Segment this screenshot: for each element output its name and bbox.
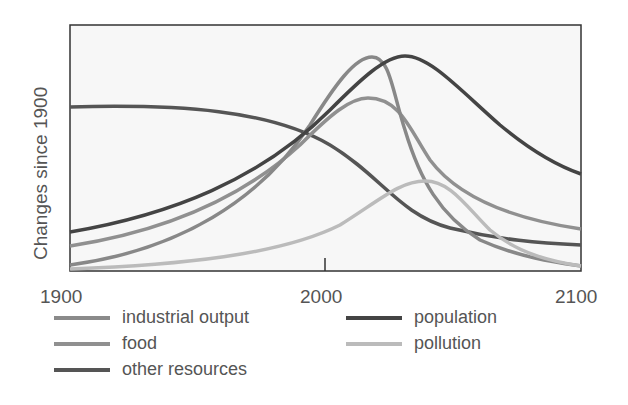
legend-item-population: population xyxy=(346,307,497,328)
plot-area xyxy=(70,25,581,271)
y-axis-label: Changes since 1900 xyxy=(30,87,52,260)
legend-label: industrial output xyxy=(122,307,249,328)
legend-swatch xyxy=(54,342,110,346)
legend-item-pollution: pollution xyxy=(346,333,481,354)
legend-label: population xyxy=(414,307,497,328)
legend-swatch xyxy=(346,316,402,320)
legend-label: food xyxy=(122,333,157,354)
x-tick-label-2100: 2100 xyxy=(555,286,597,308)
x-tick-label-2000: 2000 xyxy=(300,286,342,308)
legend-label: other resources xyxy=(122,359,247,380)
legend-swatch xyxy=(54,368,110,372)
x-tick-label-1900: 1900 xyxy=(40,286,82,308)
legend-swatch xyxy=(346,342,402,346)
legend-item-industrial-output: industrial output xyxy=(54,307,249,328)
legend-swatch xyxy=(54,316,110,320)
legend-item-other-resources: other resources xyxy=(54,359,247,380)
legend-label: pollution xyxy=(414,333,481,354)
legend-item-food: food xyxy=(54,333,157,354)
